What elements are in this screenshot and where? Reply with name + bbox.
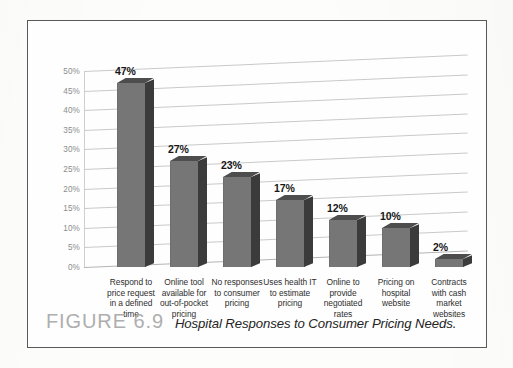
- bar-group: 23%: [223, 177, 260, 267]
- bar: [435, 259, 463, 267]
- x-axis-category-label: Uses health ITto estimatepricing: [260, 277, 320, 309]
- y-axis-tick-label: 50%: [63, 67, 80, 76]
- bar-value-label: 12%: [327, 202, 348, 214]
- category-label-line: available for: [154, 288, 214, 299]
- y-axis-tick-label: 25%: [63, 165, 80, 174]
- category-label-line: to estimate: [260, 288, 320, 299]
- bar-front-face: [117, 83, 146, 267]
- category-label-line: with cash: [419, 288, 479, 299]
- category-label-line: hospital: [366, 288, 426, 299]
- category-label-line: Respond to: [101, 277, 161, 288]
- bar-group: 17%: [276, 200, 313, 267]
- category-label-line: pricing: [260, 298, 320, 309]
- y-axis-tick-label: 20%: [63, 184, 80, 193]
- figure-number: FIGURE 6.9: [46, 310, 164, 333]
- y-axis-tick-label: 35%: [63, 125, 80, 134]
- bar-front-face: [382, 228, 411, 267]
- category-label-line: negotiated: [313, 298, 373, 309]
- bar-front-face: [276, 200, 305, 267]
- bar-value-label: 17%: [274, 182, 295, 194]
- y-axis: 50%45%40%35%30%25%20%15%10%5%0%: [38, 21, 80, 256]
- category-label-line: market: [419, 298, 479, 309]
- bar-front-face: [329, 220, 358, 267]
- bar-side-face: [251, 173, 260, 267]
- y-axis-tick-label: 30%: [63, 145, 80, 154]
- category-label-line: Online to: [313, 277, 373, 288]
- figure-caption: FIGURE 6.9 Hospital Responses to Consume…: [46, 310, 474, 333]
- plot-area: 47%27%23%17%12%10%2%: [84, 29, 486, 275]
- figure-frame: 50%45%40%35%30%25%20%15%10%5%0% 47%27%23…: [27, 20, 487, 348]
- chart-area: 50%45%40%35%30%25%20%15%10%5%0% 47%27%23…: [28, 21, 486, 303]
- category-label-line: pricing: [207, 298, 267, 309]
- x-axis-category-label: Pricing onhospitalwebsite: [366, 277, 426, 309]
- bar-group: 10%: [382, 228, 419, 267]
- bar-side-face: [198, 158, 207, 267]
- y-axis-tick-label: 45%: [63, 86, 80, 95]
- y-axis-tick-label: 10%: [63, 223, 80, 232]
- bar-value-label: 23%: [221, 159, 242, 171]
- y-axis-tick-label: 5%: [68, 243, 80, 252]
- bar-front-face: [170, 161, 199, 267]
- bar-value-label: 2%: [433, 241, 448, 253]
- bar-side-face: [357, 216, 366, 267]
- category-label-line: No responses: [207, 277, 267, 288]
- bar: [276, 200, 304, 267]
- category-label-line: Uses health IT: [260, 277, 320, 288]
- bar-side-face: [145, 79, 154, 267]
- category-label-line: website: [366, 298, 426, 309]
- category-label-line: to consumer: [207, 288, 267, 299]
- category-label-line: Contracts: [419, 277, 479, 288]
- x-axis-category-label: No responsesto consumerpricing: [207, 277, 267, 309]
- bar-series: 47%27%23%17%12%10%2%: [84, 29, 486, 275]
- bar: [223, 177, 251, 267]
- bar: [329, 220, 357, 267]
- y-axis-tick-label: 40%: [63, 106, 80, 115]
- y-axis-tick-label: 0%: [68, 263, 80, 272]
- bar-value-label: 27%: [168, 143, 189, 155]
- bar-group: 27%: [170, 161, 207, 267]
- bar: [382, 228, 410, 267]
- bar-value-label: 47%: [115, 65, 136, 77]
- category-label-line: Online tool: [154, 277, 214, 288]
- bar-side-face: [304, 197, 313, 267]
- category-label-line: Pricing on: [366, 277, 426, 288]
- bar: [117, 83, 145, 267]
- category-label-line: provide: [313, 288, 373, 299]
- bar-value-label: 10%: [380, 210, 401, 222]
- bar-group: 2%: [435, 259, 472, 267]
- bar-group: 12%: [329, 220, 366, 267]
- bar-front-face: [435, 259, 464, 267]
- bar-group: 47%: [117, 83, 154, 267]
- bar-side-face: [410, 224, 419, 267]
- category-label-line: price request: [101, 288, 161, 299]
- category-label-line: in a defined: [101, 298, 161, 309]
- bar: [170, 161, 198, 267]
- figure-title: Hospital Responses to Consumer Pricing N…: [175, 316, 456, 331]
- bar-front-face: [223, 177, 252, 267]
- category-label-line: out-of-pocket: [154, 298, 214, 309]
- y-axis-tick-label: 15%: [63, 204, 80, 213]
